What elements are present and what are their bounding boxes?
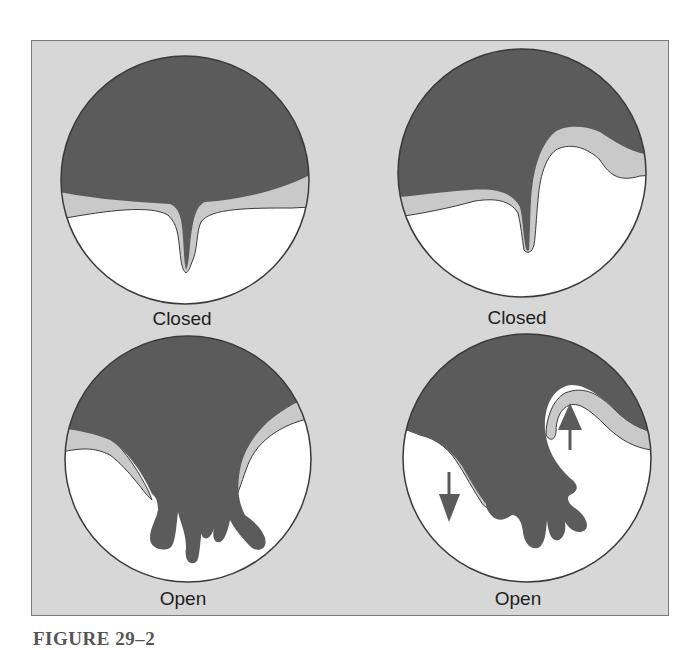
panel-bottom-left — [40, 320, 340, 582]
panel-top-left — [40, 40, 330, 304]
panel-label-bottom-right: Open — [458, 589, 578, 609]
panel-top-right — [380, 40, 670, 297]
figure-illustration — [0, 0, 696, 650]
panel-label-top-right: Closed — [457, 308, 577, 328]
figure-caption: FIGURE 29–2 — [33, 629, 155, 649]
panel-label-top-left: Closed — [122, 309, 242, 329]
panel-label-bottom-left: Open — [123, 589, 243, 609]
panel-bottom-right — [380, 320, 670, 582]
